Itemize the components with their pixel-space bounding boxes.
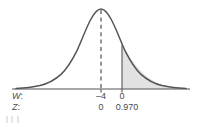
axis-row-label-w-text: W [12, 91, 21, 101]
tick-label-z-boundary: 0.970 [116, 103, 139, 112]
tick-label-z-mean: 0 [98, 103, 103, 112]
tick-label-w-boundary: 0 [119, 92, 124, 101]
axis-row-label-w: W: [12, 92, 23, 101]
page-edge-artifact [6, 116, 32, 123]
tick-label-w-mean: –4 [96, 92, 106, 101]
axis-row-label-z: Z: [12, 103, 20, 112]
axis-row-label-z-colon: : [18, 102, 21, 112]
shaded-tail-region [122, 45, 188, 89]
normal-distribution-figure: W: Z: –4 0 0 0.970 [0, 0, 201, 125]
axis-row-label-w-colon: : [21, 91, 24, 101]
